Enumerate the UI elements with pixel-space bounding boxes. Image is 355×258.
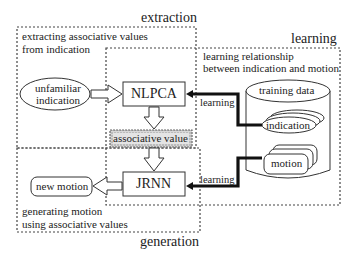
learning-desc-line1: learning relationship — [203, 51, 294, 62]
new-motion-label: new motion — [36, 181, 88, 192]
associative-value-label: associative value — [113, 133, 188, 144]
learning-edge-label-bottom: learning — [200, 175, 234, 186]
extraction-desc-line1: extracting associative values — [22, 31, 148, 42]
unfamiliar-label-line2: indication — [36, 95, 80, 106]
nlpca-label: NLPCA — [131, 87, 177, 101]
learning-desc-line2: between indication and motion — [203, 63, 339, 74]
arrow-to-new-motion-icon — [93, 177, 122, 195]
generation-desc-line2: using associative values — [22, 219, 128, 230]
learning-title: learning — [291, 32, 337, 46]
extraction-desc-line2: from indication — [22, 44, 90, 55]
jrnn-label: JRNN — [136, 177, 171, 191]
learning-edge-label-top: learning — [200, 98, 234, 109]
arrowhead-jrnn-icon — [186, 182, 193, 190]
arrow-down-2-icon — [144, 148, 164, 171]
motion-label: motion — [271, 158, 302, 169]
generation-desc-line1: generating motion — [22, 206, 102, 217]
generation-title: generation — [140, 235, 199, 249]
extraction-title: extraction — [141, 11, 197, 25]
arrowhead-nlpca-icon — [186, 90, 193, 98]
arrow-down-1-icon — [144, 107, 164, 129]
indication-label: indication — [266, 120, 310, 131]
training-data-label: training data — [259, 85, 314, 96]
unfamiliar-label-line1: unfamiliar — [35, 83, 81, 94]
